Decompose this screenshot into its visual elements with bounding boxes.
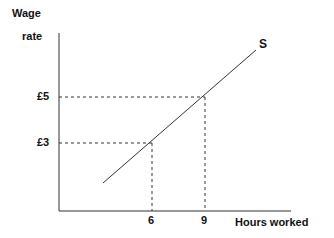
x-axis-label: Hours worked	[235, 216, 308, 228]
y-axis-label-line2: rate	[22, 30, 42, 42]
x-tick-9: 9	[201, 214, 207, 226]
supply-curve	[103, 50, 256, 183]
supply-curve-label: S	[259, 37, 267, 51]
supply-diagram	[0, 0, 334, 238]
y-axis-label-line1: Wage	[12, 7, 41, 19]
y-tick-5: £5	[37, 90, 49, 102]
y-tick-3: £3	[37, 136, 49, 148]
x-tick-6: 6	[148, 214, 154, 226]
